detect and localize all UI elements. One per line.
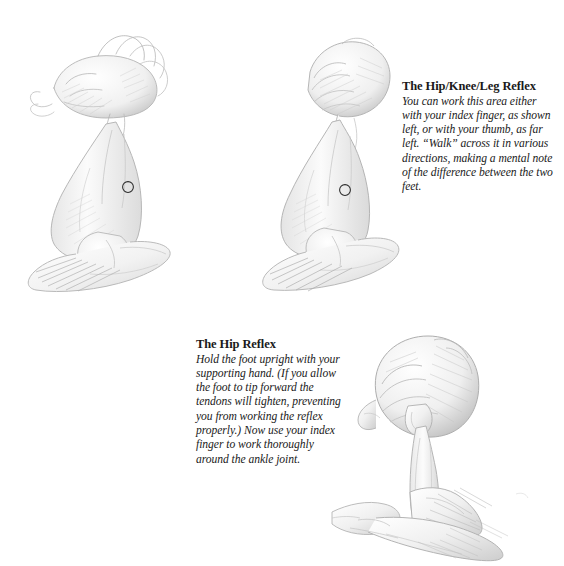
working-hand-top: [358, 336, 479, 437]
supporting-hand-lower: [28, 232, 170, 292]
book-page: The Hip/Knee/Leg Reflex You can work thi…: [0, 0, 564, 566]
caption-body: Hold the foot upright with your supporti…: [196, 353, 346, 467]
hand-working-foot-with-thumb-illustration: [20, 18, 230, 293]
hand-working-ankle-joint-illustration: [330, 322, 530, 562]
caption-heading: The Hip/Knee/Leg Reflex: [402, 79, 554, 94]
caption-hip-knee-leg-reflex: The Hip/Knee/Leg Reflex You can work thi…: [402, 79, 554, 195]
pencil-strokes-upper-hand: [30, 36, 167, 148]
pencil-wisp-right: [516, 493, 528, 498]
caption-heading: The Hip Reflex: [196, 337, 346, 352]
caption-hip-reflex: The Hip Reflex Hold the foot upright wit…: [196, 337, 346, 467]
caption-body: You can work this area either with your …: [402, 95, 554, 195]
